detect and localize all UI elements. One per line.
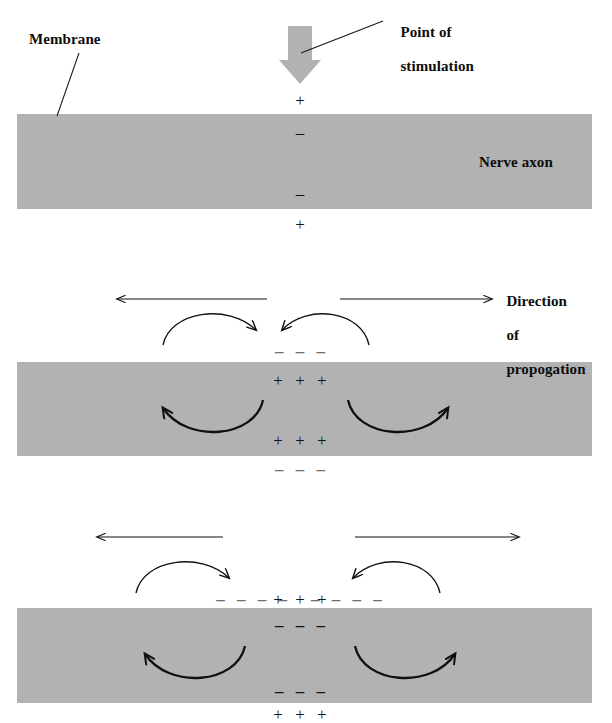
direction-line-1: Direction — [506, 293, 567, 309]
charge-panel-2-above-membrane: – – – — [256, 343, 348, 360]
current-loop-outer-right-panel-3 — [353, 562, 440, 593]
charge-panel-1-above-membrane: + — [276, 92, 324, 109]
charge-panel-1-below-membrane: + — [276, 216, 324, 233]
charge-panel-3-inside-bottom: – – – — [256, 683, 348, 700]
charge-panel-3-inside-top: – – – — [256, 617, 348, 634]
stimulation-arrow-icon — [279, 26, 321, 84]
nerve-impulse-diagram: Membrane Point of stimulation Nerve axon… — [0, 0, 612, 723]
direction-line-2: of — [506, 327, 519, 343]
charge-panel-1-inside-bottom: – — [276, 185, 324, 202]
current-loop-outer-right-panel-2 — [282, 314, 369, 345]
charge-panel-3-below-membrane: + + + — [256, 706, 348, 723]
nerve-axon-label: Nerve axon — [479, 154, 553, 171]
current-loop-outer-left-panel-2 — [163, 314, 256, 345]
point-of-stimulation-label: Point of stimulation — [385, 7, 474, 92]
charge-panel-2-below-membrane: – – – — [256, 461, 348, 478]
membrane-leader-line — [57, 53, 79, 116]
charge-panel-2-inside-bottom: + + + — [256, 432, 348, 449]
charge-panel-2-inside-top: + + + — [256, 372, 348, 389]
membrane-label: Membrane — [29, 31, 101, 48]
point-of-stimulation-leader-line — [301, 21, 383, 53]
current-loop-outer-left-panel-3 — [136, 562, 229, 593]
point-of-stimulation-line-2: stimulation — [400, 58, 474, 74]
charge-panel-1-inside-top: – — [276, 124, 324, 141]
charge-panel-3-above-membrane-right: – – – – — [311, 591, 397, 608]
direction-line-3: propogation — [506, 361, 585, 377]
direction-of-propagation-label: Direction of propogation — [491, 276, 586, 395]
point-of-stimulation-line-1: Point of — [400, 24, 451, 40]
